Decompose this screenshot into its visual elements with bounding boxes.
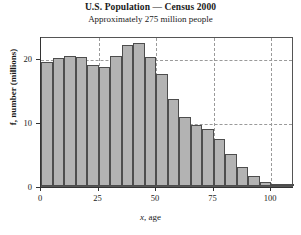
histogram-bar <box>110 56 122 186</box>
histogram-bar <box>191 125 203 186</box>
x-tick-mark <box>270 187 271 191</box>
histogram-bar <box>122 45 134 186</box>
plot-area <box>40 37 293 187</box>
y-tick-label: 0 <box>10 182 32 192</box>
x-tick-label: 50 <box>151 193 160 203</box>
histogram-bar <box>179 117 191 186</box>
chart-subtitle: Approximately 275 million people <box>0 14 301 24</box>
x-tick-label: 75 <box>208 193 217 203</box>
x-tick-label: 25 <box>93 193 102 203</box>
x-tick-mark <box>98 187 99 191</box>
x-axis-label-rest: , age <box>144 212 161 222</box>
y-axis-label-var: f <box>8 122 18 125</box>
y-axis-label: f, number (millions) <box>8 27 18 147</box>
population-histogram-figure: U.S. Population — Census 2000 Approximat… <box>0 0 301 235</box>
x-tick-mark <box>40 187 41 191</box>
histogram-bar <box>271 184 283 186</box>
plot-inner <box>41 38 292 186</box>
histogram-bar <box>133 43 145 186</box>
x-axis-line <box>40 187 293 188</box>
histogram-bar <box>260 182 272 186</box>
histogram-bar <box>145 57 157 186</box>
histogram-bar <box>225 154 237 186</box>
x-tick-label: 100 <box>264 193 277 203</box>
histogram-bar <box>64 56 76 186</box>
histogram-bar <box>87 65 99 186</box>
x-tick-mark <box>213 187 214 191</box>
y-axis-label-rest: , number (millions) <box>8 49 18 123</box>
histogram-bar <box>76 57 88 186</box>
histogram-bar <box>41 62 53 186</box>
x-axis-label: x, age <box>0 212 301 222</box>
x-tick-label: 0 <box>38 193 42 203</box>
histogram-bar <box>283 184 295 186</box>
y-tick-mark <box>36 59 40 60</box>
histogram-bar <box>156 74 168 186</box>
histogram-bar <box>202 129 214 186</box>
histogram-bar <box>214 139 226 186</box>
histogram-bar <box>237 167 249 186</box>
histogram-bars <box>41 38 292 186</box>
histogram-bar <box>168 99 180 186</box>
histogram-bar <box>53 58 65 186</box>
histogram-bar <box>248 176 260 186</box>
y-axis-line <box>40 37 41 187</box>
chart-title: U.S. Population — Census 2000 <box>0 2 301 12</box>
y-tick-mark <box>36 123 40 124</box>
histogram-bar <box>99 67 111 186</box>
x-tick-mark <box>155 187 156 191</box>
